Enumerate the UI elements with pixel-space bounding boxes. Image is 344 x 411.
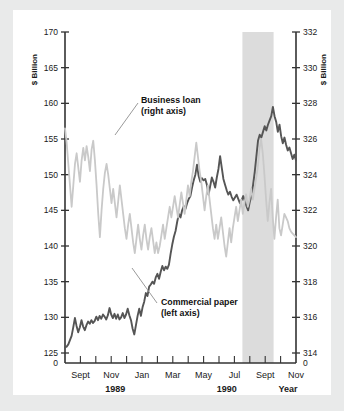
annotation-subtitle: (right axis) [141,106,186,116]
left-tick-label: 165 [44,63,58,73]
x-tick-label: Nov [288,370,305,380]
annotation-subtitle: (left axis) [161,308,200,318]
chart-svg: 1251301351401451501551601651700314316318… [13,10,331,395]
right-tick-label: 328 [303,98,317,108]
chart-background [13,10,331,395]
left-tick-label: 135 [44,277,58,287]
x-tick-label: Sept [71,370,90,380]
left-tick-label: 140 [44,241,58,251]
right-tick-label: 322 [303,205,317,215]
left-tick-label: 125 [44,348,58,358]
right-tick-label: 324 [303,170,317,180]
x-tick-label: Mar [165,370,181,380]
x-tick-label: Jan [135,370,150,380]
right-axis-title: $ Billion [319,54,328,85]
x-tick-label: Sept [256,370,275,380]
chart-figure: 1251301351401451501551601651700314316318… [13,10,331,395]
right-tick-label: 320 [303,241,317,251]
right-tick-label: 326 [303,134,317,144]
right-tick-label: 316 [303,312,317,322]
left-tick-label: 160 [44,98,58,108]
annotation-title: Commercial paper [161,297,238,307]
left-axis-title: $ Billion [30,54,39,85]
annotation-title: Business loan [141,95,201,105]
left-tick-label: 130 [44,312,58,322]
left-tick-label: 170 [44,27,58,37]
right-tick-label: 318 [303,277,317,287]
x-group-label: 1989 [105,384,125,394]
right-tick-label: 332 [303,27,317,37]
left-tick-label: 145 [44,205,58,215]
right-tick-label: 314 [303,348,317,358]
x-tick-label: May [195,370,213,380]
x-axis-title: Year [278,384,298,394]
right-zero-label: 0 [303,358,308,368]
left-zero-label: 0 [53,358,58,368]
right-tick-label: 330 [303,63,317,73]
left-tick-label: 155 [44,134,58,144]
x-tick-label: Nov [103,370,120,380]
left-tick-label: 150 [44,170,58,180]
x-tick-label: Jul [229,370,241,380]
x-group-label: 1990 [217,384,237,394]
